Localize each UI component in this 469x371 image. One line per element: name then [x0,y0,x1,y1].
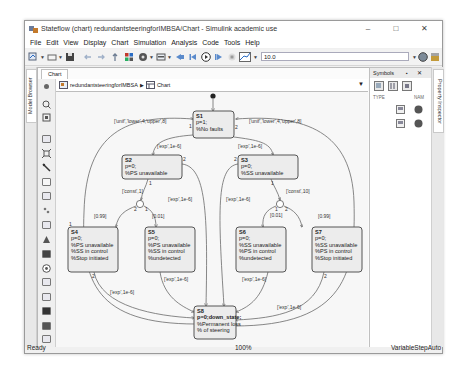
box-tool-icon[interactable] [42,178,51,186]
zoom-icon[interactable] [42,100,51,109]
svg-text:S4: S4 [71,229,79,235]
simulink-state-tool-icon[interactable] [42,264,51,273]
hide-browser-icon[interactable] [42,82,51,91]
step-icon[interactable] [188,52,198,62]
mask-tool-icon[interactable] [42,307,51,315]
label-s1-s3: ['exp',1e-6] [238,143,263,149]
label-p-s4: [0.99] [94,213,107,219]
stateflow-app-icon [29,25,38,33]
state-s5: S5 p=0; %PS unavailable %SS in control %… [145,227,195,272]
model-browser-tab[interactable]: Model Browser [26,69,37,123]
default-transition-dot [210,93,215,98]
menu-analysis[interactable]: Analysis [171,39,197,46]
forward-icon[interactable] [96,52,106,62]
settings-gear-icon[interactable] [138,52,148,62]
block-dropdown-icon[interactable]: ▼ [167,54,172,60]
svg-text:%SS in control: %SS in control [148,248,185,254]
chart-icon [146,81,155,89]
stop-time-dropdown-icon[interactable]: ▼ [412,54,417,60]
right-dock: Property Inspector [431,67,443,347]
state-s8: S8 p=0;down_state; %Permanent loss % of … [194,306,241,339]
menu-chart[interactable]: Chart [111,39,128,46]
scope-dropdown-icon[interactable]: ▼ [253,54,258,60]
svg-text:% of steering: % of steering [197,327,230,333]
solver-name[interactable]: VariableStepAuto [391,344,441,351]
menu-help[interactable]: Help [245,39,259,46]
symbols-title: Symbols [373,70,394,76]
breadcrumb-model[interactable]: redundantsteeringforIMBSA [70,82,138,88]
build-icon[interactable] [430,52,440,62]
settings-dropdown-icon[interactable]: ▼ [149,54,154,60]
run-icon[interactable] [201,52,211,62]
menu-display[interactable]: Display [83,39,106,46]
stop-time-input[interactable]: 10.0 [261,52,409,61]
menu-code[interactable]: Code [202,39,219,46]
maximize-button[interactable]: □ [384,21,408,36]
svg-text:p=0;: p=0; [239,235,250,241]
add-event-icon[interactable] [402,81,412,91]
simulink-function-tool-icon[interactable] [42,278,51,286]
open-dropdown-icon[interactable]: ▼ [58,54,63,60]
overview-tool-icon[interactable] [42,335,51,343]
explore-tool-icon[interactable] [42,322,51,330]
back-icon[interactable] [83,52,93,62]
column-name[interactable]: NAM [414,95,424,100]
model-settings-dropdown-icon[interactable]: ▼ [40,54,45,60]
svg-text:%SS unavailable: %SS unavailable [315,242,357,248]
default-transition-tool-icon[interactable] [42,163,51,172]
save-icon[interactable] [65,52,75,62]
resolve-undefined-icon[interactable] [374,81,384,91]
minimize-button[interactable]: – [356,21,380,36]
menu-file[interactable]: File [30,39,41,46]
svg-text:2: 2 [235,124,238,130]
chart-editor: Chart redundantsteeringforIMBSA ▶ [37,67,370,349]
svg-text:1: 1 [275,206,278,212]
status-icon [414,119,423,128]
svg-text:p=1;: p=1; [196,119,207,125]
block-icon[interactable] [156,52,166,62]
close-button[interactable]: ✕ [412,21,436,36]
tab-chart[interactable]: Chart [41,69,68,79]
column-type[interactable]: TYPE [373,95,385,100]
svg-text:p=0;: p=0; [315,235,326,241]
stateflow-canvas[interactable]: S1 p=1; %No faults S2 p=0; %PS unavailab… [56,92,368,347]
label-s2-s8: ['exp',1e-6] [168,196,193,202]
menu-view[interactable]: View [63,39,78,46]
step-forward-icon[interactable] [214,52,224,62]
property-inspector-tab[interactable]: Property Inspector [433,69,444,133]
menu-edit[interactable]: Edit [46,39,58,46]
label-s7-s8: ['exp',1e-6] [277,304,302,310]
state-tool-icon[interactable] [42,135,51,143]
junction-left [136,200,143,207]
scope-icon[interactable] [239,52,251,62]
annotation-tool-icon[interactable] [42,235,51,244]
open-icon[interactable] [47,52,57,62]
menu-tools[interactable]: Tools [224,39,240,46]
close-panel-icon[interactable]: ✕ [417,68,422,78]
menu-simulation[interactable]: Simulation [133,39,166,46]
stop-icon[interactable] [227,52,237,62]
model-settings-icon[interactable] [28,52,38,62]
junction-tool-icon[interactable] [42,149,51,158]
add-data-icon[interactable] [388,81,398,91]
pin-icon[interactable]: ▪ [406,68,408,78]
up-icon[interactable] [110,52,120,62]
step-back-icon[interactable] [175,52,185,62]
svg-text:p=0;: p=0; [125,163,136,169]
breadcrumb-chart[interactable]: Chart [157,82,170,88]
state-s4: S4 p=0; %PS unavailable %SS in control %… [68,227,118,272]
check-icon[interactable] [418,52,428,62]
data-type-icon [396,119,405,128]
fit-to-view-icon[interactable] [42,113,51,122]
graphical-function-tool-icon[interactable] [42,192,51,200]
image-tool-icon[interactable] [42,293,51,301]
breadcrumb-dropdown-icon[interactable]: ▼ [358,81,364,87]
history-junction-tool-icon[interactable] [42,206,51,215]
matlab-function-tool-icon[interactable] [42,250,51,258]
truth-table-tool-icon[interactable] [42,221,51,229]
svg-text:S2: S2 [125,157,132,163]
library-icon[interactable] [124,52,134,62]
svg-text:1: 1 [149,180,152,186]
label-s6-s8: ['exp',1e-6] [242,276,267,282]
svg-text:p=0;: p=0; [71,235,82,241]
